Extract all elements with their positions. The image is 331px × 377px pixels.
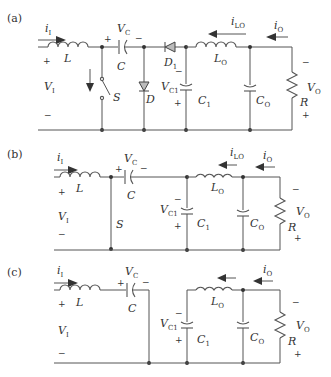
c1-voltage-label: VC1: [160, 317, 178, 332]
input-current-arrow-icon: [54, 166, 78, 174]
capacitor-c-label: C: [117, 60, 126, 73]
capacitor-c1-label: C1: [197, 333, 210, 348]
cap-minus-sign: −: [142, 277, 150, 287]
output-current-label: iO: [263, 149, 273, 164]
switch-s-label: S: [116, 218, 124, 231]
cap-voltage-label: VC: [124, 152, 137, 167]
lo-current-label: iLO: [231, 15, 245, 30]
capacitor-co-label: CO: [256, 94, 270, 109]
resistor-r-label: R: [299, 96, 308, 109]
input-voltage-label: VI: [58, 324, 69, 339]
inductor-l-icon: [60, 285, 100, 290]
inductor-lo-icon: [196, 174, 232, 177]
output-voltage-label: VO: [296, 205, 310, 220]
panel-tag: (c): [7, 266, 22, 279]
inductor-l-icon: [60, 172, 100, 177]
capacitor-co-icon: [237, 322, 249, 324]
output-current-arrow-icon: [266, 33, 288, 41]
diode-d-label: D: [145, 93, 155, 106]
cap-plus-sign: +: [104, 34, 112, 44]
c1-voltage-label: VC1: [161, 80, 179, 95]
input-current-label: iI: [57, 151, 64, 166]
input-minus-sign: −: [44, 110, 52, 120]
inductor-l-label: L: [75, 296, 83, 309]
diode-d1-icon: [165, 42, 175, 52]
input-minus-sign: −: [58, 229, 66, 239]
out-plus-sign: +: [294, 233, 302, 243]
output-current-arrow-icon: [255, 163, 275, 171]
lo-current-arrow-icon: [218, 161, 237, 169]
inductor-lo-label: LO: [213, 52, 227, 67]
capacitor-c1-icon: [181, 322, 193, 324]
output-voltage-label: VO: [307, 81, 321, 96]
input-current-arrow-icon: [38, 36, 66, 44]
inductor-lo-icon: [196, 287, 232, 290]
input-current-label: iI: [45, 22, 52, 37]
inductor-l-icon: [48, 42, 88, 47]
cap-voltage-label: VC: [125, 265, 138, 280]
capacitor-co-label: CO: [250, 217, 264, 232]
out-minus-sign: −: [292, 184, 300, 194]
c1-plus-sign: +: [175, 335, 183, 345]
capacitor-co-icon: [237, 210, 249, 212]
out-minus-sign: −: [302, 57, 310, 67]
input-minus-sign: −: [58, 348, 66, 358]
inductor-l-label: L: [75, 182, 83, 195]
circuit-figure: (a) iI L + VI − S + VC: [0, 0, 331, 377]
inductor-l-label: L: [63, 52, 71, 65]
capacitor-co-icon: [244, 85, 256, 87]
input-current-label: iI: [57, 264, 64, 279]
switch-current-arrow-icon: [86, 69, 94, 92]
output-current-label: iO: [274, 19, 284, 34]
panel-b: (b) iI L + VI − S + VC − C − VC1: [7, 146, 310, 252]
capacitor-c1-label: C1: [198, 94, 211, 109]
input-plus-sign: +: [58, 187, 66, 197]
panel-c: (c) iI L + VI − + VC − C − VC1 + C1: [7, 263, 310, 365]
out-plus-sign: +: [302, 110, 310, 120]
cap-plus-sign: +: [115, 164, 123, 174]
input-plus-sign: +: [43, 56, 51, 66]
input-plus-sign: +: [58, 299, 66, 309]
lo-current-arrow-icon: [208, 30, 246, 38]
c1-plus-sign: +: [174, 98, 182, 108]
panel-tag: (b): [7, 148, 23, 161]
c1-minus-sign: −: [174, 194, 182, 204]
out-plus-sign: +: [294, 349, 302, 359]
lo-current-arrow-icon: [217, 274, 236, 282]
panel-tag: (a): [7, 12, 22, 25]
capacitor-c-label: C: [128, 302, 137, 315]
c1-minus-sign: −: [175, 308, 183, 318]
c1-plus-sign: +: [174, 221, 182, 231]
capacitor-co-label: CO: [250, 331, 264, 346]
output-current-label: iO: [263, 263, 273, 278]
resistor-r-icon: [275, 312, 285, 338]
capacitor-c1-icon: [180, 84, 192, 86]
inductor-lo-label: LO: [210, 295, 224, 310]
cap-minus-sign: −: [135, 33, 143, 43]
capacitor-c-label: C: [127, 189, 136, 202]
cap-minus-sign: −: [140, 163, 148, 173]
lo-current-label: iLO: [230, 146, 244, 161]
capacitor-c1-label: C1: [197, 217, 210, 232]
output-current-arrow-icon: [253, 277, 273, 285]
inductor-lo-label: LO: [210, 181, 224, 196]
c1-minus-sign: −: [175, 66, 183, 76]
cap-voltage-label: VC: [117, 22, 130, 37]
input-current-arrow-icon: [54, 279, 78, 287]
out-minus-sign: −: [292, 297, 300, 307]
switch-s-label: S: [113, 91, 121, 104]
input-voltage-label: VI: [58, 210, 69, 225]
inductor-lo-icon: [196, 42, 236, 47]
switch-s-icon: [102, 80, 110, 95]
input-voltage-label: VI: [44, 80, 55, 95]
resistor-r-icon: [275, 198, 285, 224]
output-voltage-label: VO: [296, 319, 310, 334]
resistor-r-label: R: [287, 335, 296, 348]
diode-d-icon: [139, 82, 149, 91]
capacitor-c1-icon: [181, 208, 193, 210]
c1-voltage-label: VC1: [160, 203, 178, 218]
resistor-r-icon: [287, 72, 297, 98]
panel-a: (a) iI L + VI − S + VC: [7, 12, 321, 132]
cap-plus-sign: +: [117, 278, 125, 288]
